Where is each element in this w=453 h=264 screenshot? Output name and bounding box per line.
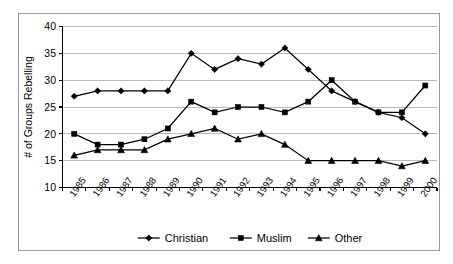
x-tick-label: 1998 xyxy=(371,175,392,199)
legend-item-other[interactable]: Other xyxy=(308,232,363,244)
y-axis-tick-labels: 10152025303540 xyxy=(44,20,56,193)
x-tick-label: 1987 xyxy=(114,175,135,199)
x-tick-label: 1990 xyxy=(184,175,205,199)
y-axis-title: # of Groups Rebelling xyxy=(22,56,34,158)
data-point xyxy=(236,105,241,110)
x-tick-label: 1989 xyxy=(160,175,181,199)
x-tick-label: 1985 xyxy=(67,175,88,199)
data-point xyxy=(329,78,334,83)
data-point xyxy=(142,137,147,142)
data-point xyxy=(141,88,147,94)
x-tick-label: 1991 xyxy=(207,175,228,199)
line-chart: 10152025303540 1985198619871988198919901… xyxy=(0,0,453,264)
data-point xyxy=(212,110,217,115)
data-point xyxy=(259,105,264,110)
legend-item-muslim[interactable]: Muslim xyxy=(230,232,292,244)
data-point xyxy=(118,88,124,94)
series-christian xyxy=(71,45,428,137)
series-line xyxy=(74,48,425,134)
data-point xyxy=(423,83,428,88)
y-tick-label: 15 xyxy=(44,154,56,166)
y-tick-label: 35 xyxy=(44,47,56,59)
data-point xyxy=(211,125,218,131)
data-point xyxy=(399,110,404,115)
data-point xyxy=(376,110,381,115)
x-tick-label: 1988 xyxy=(137,175,158,199)
x-tick-label: 1993 xyxy=(254,175,275,199)
x-tick-label: 1999 xyxy=(395,175,416,199)
series-other xyxy=(71,125,429,169)
data-point xyxy=(72,131,77,136)
chart-legend: ChristianMuslimOther xyxy=(138,232,363,244)
legend-label: Other xyxy=(335,232,363,244)
x-tick-label: 1995 xyxy=(301,175,322,199)
y-tick-label: 25 xyxy=(44,101,56,113)
y-axis-title-text: # of Groups Rebelling xyxy=(22,56,34,158)
y-tick-label: 10 xyxy=(44,181,56,193)
x-tick-label: 1997 xyxy=(348,175,369,199)
data-point xyxy=(71,93,77,99)
y-tick-label: 30 xyxy=(44,74,56,86)
data-point xyxy=(235,56,241,62)
legend-marker xyxy=(146,235,152,241)
y-tick-label: 20 xyxy=(44,128,56,140)
x-tick-label: 1986 xyxy=(90,175,111,199)
data-point xyxy=(306,99,311,104)
y-tick-label: 40 xyxy=(44,20,56,32)
data-point xyxy=(281,141,288,147)
x-tick-label: 1996 xyxy=(324,175,345,199)
data-point xyxy=(353,99,358,104)
x-axis-tick-labels: 1985198619871988198919901991199219931994… xyxy=(67,175,439,199)
gridlines xyxy=(63,27,438,161)
legend-item-christian[interactable]: Christian xyxy=(138,232,208,244)
data-point xyxy=(189,99,194,104)
data-point xyxy=(282,110,287,115)
legend-label: Muslim xyxy=(257,232,292,244)
chart-figure: 10152025303540 1985198619871988198919901… xyxy=(0,0,453,264)
legend-marker xyxy=(238,236,243,241)
x-tick-label: 1992 xyxy=(231,175,252,199)
x-tick-label: 2000 xyxy=(418,175,439,199)
data-point xyxy=(165,88,171,94)
series-line xyxy=(74,80,425,144)
legend-label: Christian xyxy=(165,232,208,244)
x-tick-label: 1994 xyxy=(277,175,298,199)
data-point xyxy=(165,126,170,131)
data-point xyxy=(95,88,101,94)
